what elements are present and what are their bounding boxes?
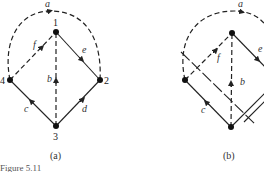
node-left-b (182, 77, 188, 83)
panel-a: 1 2 3 4 a b c d e f (a) (0, 0, 109, 162)
edge-d (56, 80, 100, 126)
edge-label-f: f (33, 39, 37, 50)
figure-canvas: 1 2 3 4 a b c d e f (a) a b c e f (b) (0, 0, 264, 172)
edge-label-a-b: a (238, 0, 243, 9)
panel-a-caption: (a) (50, 150, 61, 162)
node-4 (7, 77, 13, 83)
node-bottom-b (228, 124, 234, 130)
edge-f-b (185, 33, 232, 80)
edge-label-b-b: b (240, 76, 245, 87)
edge-label-c: c (24, 103, 29, 114)
node-label-4: 4 (0, 75, 5, 86)
node-label-3: 3 (53, 131, 58, 142)
edge-label-f-b: f (217, 52, 221, 63)
node-3 (53, 123, 59, 129)
edge-b-b (231, 33, 232, 127)
cut-line-2 (244, 96, 264, 122)
node-2 (97, 77, 103, 83)
node-1 (53, 29, 59, 35)
edge-label-e: e (82, 44, 87, 55)
edge-label-b: b (47, 73, 52, 84)
edge-label-d: d (82, 103, 88, 114)
edge-label-c-b: c (201, 104, 206, 115)
node-label-1: 1 (53, 17, 58, 28)
node-top-b (229, 30, 235, 36)
edge-label-e-b: e (258, 43, 263, 54)
panel-b-caption: (b) (223, 150, 235, 162)
figure-caption: Figure 5.11 (0, 163, 41, 172)
panel-b: a b c e f (b) (181, 0, 264, 162)
edge-a-b (183, 11, 264, 80)
edge-label-a: a (45, 0, 50, 9)
edge-e (56, 32, 100, 80)
node-label-2: 2 (104, 75, 109, 86)
